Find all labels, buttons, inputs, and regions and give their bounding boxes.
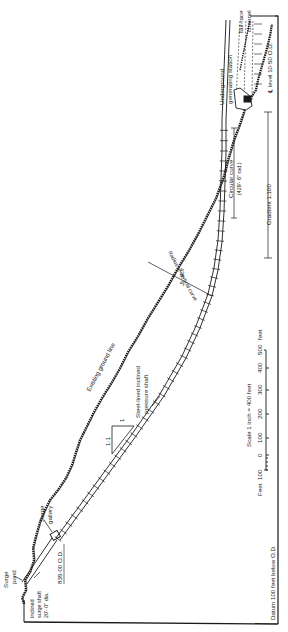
vertical-curve-label: Radius of vertical curve: [167, 250, 199, 302]
pressure-shaft-label-2: pressure shaft: [142, 375, 149, 414]
surge-pond-label-1: Surge: [2, 571, 9, 588]
surge-pond-label-2: pond: [10, 570, 17, 584]
level-label: ℄ level 10·50 O.D.: [266, 42, 273, 94]
existing-ground-line: [22, 24, 272, 604]
shaft-rib: [216, 241, 224, 242]
shaft-rib: [215, 250, 223, 251]
surge-level-label: 835·00 O.D.: [56, 550, 63, 584]
triangle-run-label: 1·1: [104, 436, 111, 446]
generating-station-label-1: Underground: [218, 68, 225, 105]
shaft-ribs: [55, 130, 228, 541]
shaft-rib: [213, 259, 221, 260]
datum-line-right: [275, 16, 278, 624]
tail-race-label-2: channel: [245, 10, 252, 32]
datum-label: Datum 100 feet below O.D.: [269, 545, 276, 620]
circular-curve-label-2: (429'- 6" rad.): [236, 162, 242, 195]
circular-curve-label-1: Circular curve: [227, 159, 234, 198]
tail-race-ticks: [254, 24, 262, 84]
scale-bar: [264, 350, 269, 470]
scale-tick-label-6: 500: [256, 344, 263, 355]
frame-bottom: [24, 622, 278, 624]
scale-tick-label-5: 400: [256, 362, 263, 373]
scale-title: Scale 1 inch = 400 feet: [245, 384, 252, 447]
scale-tick-label-4: 300: [256, 384, 263, 395]
existing-ground-label: Existing ground line: [85, 341, 117, 392]
surge-gallery-label-1: Surge: [38, 505, 45, 522]
surge-gallery-label-2: gallery: [46, 505, 53, 524]
shaft-rib: [217, 221, 225, 222]
scale-unit-left: Feet: [256, 483, 263, 496]
pressure-shaft-label-1: Steel-lined inclined: [134, 366, 141, 418]
generating-station-label-2: generating station: [226, 54, 233, 104]
tail-race-label-1: Tail-race: [237, 10, 244, 34]
scale-tick-label-1: 0: [256, 453, 263, 457]
scale-tick-label-0: 100: [256, 469, 263, 480]
scale-tick-label-3: 200: [256, 408, 263, 419]
scale-tick-label-2: 100: [256, 432, 263, 443]
triangle-rise-label: 1: [118, 418, 125, 422]
surge-shaft-label-2: surge shaft: [36, 591, 42, 618]
shaft-rib: [217, 231, 225, 232]
surge-shaft-label-3: 20'- 0" dia.: [43, 593, 49, 618]
scale-unit-right: feet: [256, 329, 263, 340]
surge-shaft-label-1: Inclined: [29, 599, 35, 618]
engineering-section-diagram: Tail-race channel Underground generating…: [0, 0, 288, 632]
gradient-label: Gradient 1:100: [265, 184, 272, 225]
